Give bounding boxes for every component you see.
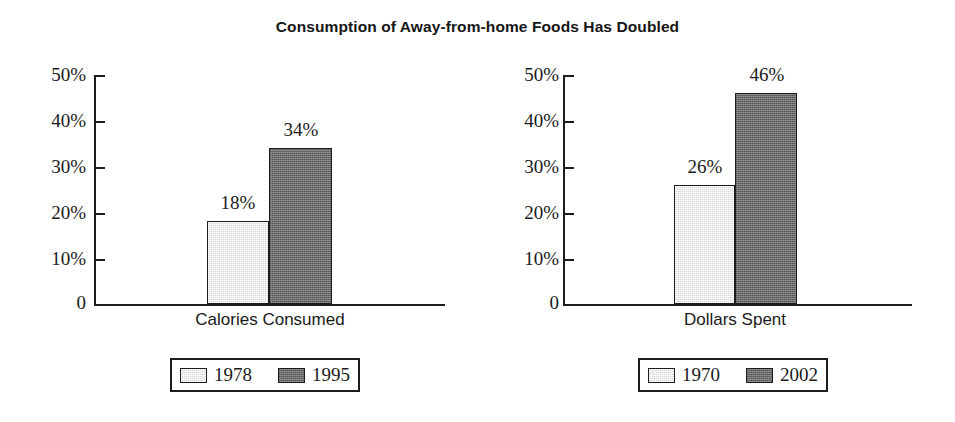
y-axis-tick-20 (565, 213, 574, 215)
legend-calories-consumed: 1978 1995 (170, 358, 360, 392)
y-axis-tick-30 (565, 167, 574, 169)
y-axis-tick-10 (565, 259, 574, 261)
bar-value-label-1970: 26% (675, 156, 735, 178)
y-axis-line (563, 75, 565, 306)
legend-entry-1978[interactable]: 1978 (180, 364, 252, 386)
x-axis-category-label: Calories Consumed (150, 310, 390, 330)
y-axis-tick-label-20: 20% (20, 202, 86, 224)
y-axis-tick-label-0: 0 (20, 292, 86, 314)
y-axis-tick-label-10: 10% (20, 248, 86, 270)
legend-label-2002: 2002 (780, 364, 818, 386)
y-axis-tick-40 (96, 121, 105, 123)
chart-panel-calories-consumed: 50% 40% 30% 20% 10% 0 18% 34% Calories C… (0, 0, 470, 422)
y-axis-tick-20 (96, 213, 105, 215)
y-axis-tick-label-20: 20% (469, 202, 559, 224)
legend-dollars-spent: 1970 2002 (638, 358, 828, 392)
legend-entry-1995[interactable]: 1995 (278, 364, 350, 386)
x-axis-line (563, 304, 912, 306)
legend-swatch-dark-icon (278, 368, 305, 383)
bar-1978[interactable] (207, 221, 269, 304)
legend-entry-1970[interactable]: 1970 (648, 364, 720, 386)
bar-1970[interactable] (674, 185, 735, 304)
chart-panel-dollars-spent: 50% 40% 30% 20% 10% 0 26% 46% Dollars Sp… (470, 0, 955, 422)
legend-label-1995: 1995 (312, 364, 350, 386)
bar-value-label-1978: 18% (208, 192, 268, 214)
y-axis-tick-label-50: 50% (469, 64, 559, 86)
legend-label-1978: 1978 (214, 364, 252, 386)
x-axis-line (94, 304, 445, 306)
legend-label-1970: 1970 (682, 364, 720, 386)
legend-swatch-dark-icon (746, 368, 773, 383)
bar-value-label-2002: 46% (736, 64, 798, 86)
bar-2002[interactable] (735, 93, 797, 304)
y-axis-tick-50 (96, 75, 105, 77)
y-axis-tick-label-10: 10% (469, 248, 559, 270)
bar-value-label-1995: 34% (270, 119, 332, 141)
legend-entry-2002[interactable]: 2002 (746, 364, 818, 386)
figure: Consumption of Away-from-home Foods Has … (0, 0, 955, 422)
y-axis-tick-50 (565, 75, 574, 77)
y-axis-tick-label-40: 40% (469, 110, 559, 132)
y-axis-tick-label-40: 40% (20, 110, 86, 132)
y-axis-tick-10 (96, 259, 105, 261)
y-axis-tick-label-30: 30% (20, 156, 86, 178)
legend-swatch-light-icon (648, 368, 675, 383)
legend-swatch-light-icon (180, 368, 207, 383)
x-axis-category-label: Dollars Spent (615, 310, 855, 330)
bar-1995[interactable] (269, 148, 332, 304)
y-axis-tick-label-30: 30% (469, 156, 559, 178)
y-axis-tick-30 (96, 167, 105, 169)
y-axis-tick-40 (565, 121, 574, 123)
y-axis-line (94, 75, 96, 306)
y-axis-tick-label-0: 0 (469, 292, 559, 314)
y-axis-tick-label-50: 50% (20, 64, 86, 86)
